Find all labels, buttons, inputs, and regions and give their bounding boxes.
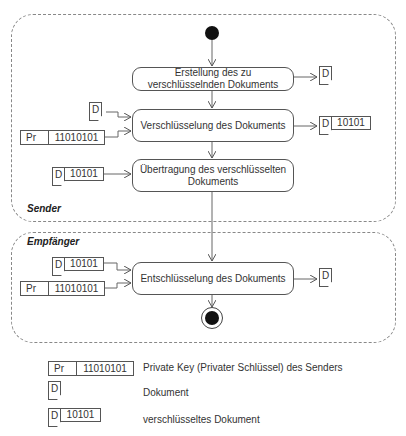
encrypted-value-output-encrypt: 10101 bbox=[331, 116, 371, 130]
legend-document-text: Dokument bbox=[143, 387, 189, 398]
encrypted-value-input-decrypt: 10101 bbox=[64, 257, 104, 271]
encrypted-value-input-transmit: 10101 bbox=[64, 167, 104, 181]
private-key-input-decrypt: Pr 11010101 bbox=[20, 281, 105, 296]
legend-private-key-text: Private Key (Privater Schlüssel) des Sen… bbox=[143, 362, 343, 373]
action-encrypt-document: Verschlüsselung des Dokuments bbox=[132, 109, 294, 142]
initial-node bbox=[205, 26, 219, 40]
legend-encrypted-document-text: verschlüsseltes Dokument bbox=[143, 414, 260, 425]
action-transmit-document: Übertragung des verschlüsselten Dokument… bbox=[132, 159, 294, 192]
legend-private-key-symbol: Pr 11010101 bbox=[48, 361, 134, 376]
document-output-decrypt: D bbox=[319, 268, 332, 287]
action-decrypt-document: Entschlüsselung des Dokuments bbox=[132, 262, 294, 295]
action-create-document: Erstellung des zu verschlüsselnden Dokum… bbox=[132, 67, 294, 91]
legend-document-symbol: D bbox=[48, 381, 61, 400]
document-output-create: D bbox=[319, 66, 332, 85]
legend-encrypted-value: 10101 bbox=[60, 408, 101, 422]
private-key-input-encrypt: Pr 11010101 bbox=[20, 130, 105, 145]
